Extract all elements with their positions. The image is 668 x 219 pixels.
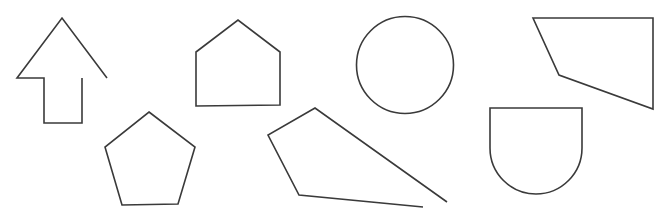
open-kite bbox=[268, 108, 447, 207]
quadrilateral bbox=[533, 18, 653, 109]
regular-pentagon bbox=[105, 112, 195, 205]
circle bbox=[357, 17, 454, 114]
shield bbox=[490, 108, 582, 194]
arrow-outline bbox=[17, 18, 107, 123]
shapes-canvas bbox=[0, 0, 668, 219]
house-pentagon bbox=[196, 20, 280, 106]
